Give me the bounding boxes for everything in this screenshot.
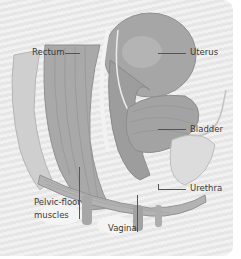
leader-line-uterus bbox=[158, 53, 186, 54]
label-pelvic-floor-line1: Pelvic-floor bbox=[34, 197, 81, 207]
diagram-panel: Rectum Uterus Bladder Urethra Pelvic-flo… bbox=[0, 0, 233, 256]
leader-line-vagina bbox=[137, 195, 138, 232]
label-vagina: Vagina bbox=[108, 223, 137, 233]
label-uterus: Uterus bbox=[190, 47, 218, 57]
label-urethra: Urethra bbox=[190, 183, 222, 193]
leader-line-rectum bbox=[65, 53, 80, 54]
anal-canal-shape bbox=[82, 195, 92, 225]
leader-line-bladder bbox=[158, 129, 186, 130]
label-rectum: Rectum bbox=[32, 47, 64, 57]
leader-line-pelvic-floor bbox=[79, 167, 80, 219]
leader-line-urethra-tick bbox=[158, 184, 159, 190]
label-pelvic-floor-line2: muscles bbox=[34, 210, 69, 220]
pubic-bone-shape bbox=[170, 135, 215, 185]
label-bladder: Bladder bbox=[190, 124, 223, 134]
urethra-canal-shape bbox=[155, 205, 162, 227]
leader-line-urethra bbox=[158, 189, 186, 190]
